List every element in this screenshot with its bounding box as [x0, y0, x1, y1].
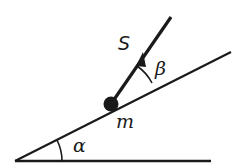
incline-diagram	[0, 0, 241, 168]
label-mass-m: m	[116, 112, 134, 131]
label-rod-s: S	[118, 34, 130, 53]
alpha-angle-arc	[57, 140, 62, 161]
beta-angle-arc	[137, 66, 152, 83]
label-alpha: α	[73, 136, 86, 155]
incline-line	[15, 52, 231, 161]
label-beta: β	[155, 59, 166, 78]
